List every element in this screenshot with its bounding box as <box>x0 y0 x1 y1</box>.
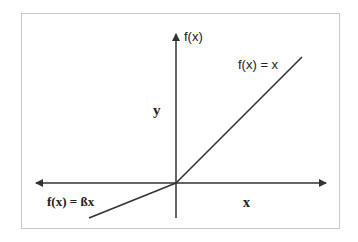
positive-piece-label: f(x) = x <box>238 58 278 71</box>
positive-line <box>176 57 302 183</box>
y-axis-label: f(x) <box>184 30 203 43</box>
y-side-label: y <box>153 103 161 118</box>
negative-piece-label: f(x) = ßx <box>47 195 94 208</box>
x-side-label: x <box>243 196 250 210</box>
negative-line <box>89 183 176 218</box>
